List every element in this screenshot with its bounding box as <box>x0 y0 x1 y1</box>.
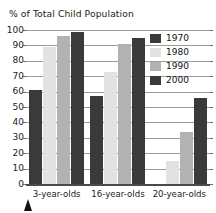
bar-chart: % of Total Child Population 100908070605… <box>0 0 216 213</box>
bar-group <box>26 30 87 184</box>
legend-item-label: 1980 <box>166 48 189 57</box>
chart-legend: 1970198019902000 <box>150 31 210 87</box>
legend-item-label: 2000 <box>166 76 189 85</box>
bar <box>29 90 42 184</box>
bar <box>118 44 131 184</box>
bar <box>71 32 84 184</box>
pointer-triangle-icon <box>24 199 32 211</box>
legend-item: 2000 <box>150 73 210 87</box>
legend-swatch-icon <box>150 34 161 43</box>
legend-item: 1970 <box>150 31 210 45</box>
legend-item: 1980 <box>150 45 210 59</box>
bar-group <box>87 30 148 184</box>
bar <box>166 161 179 184</box>
legend-item-label: 1990 <box>166 62 189 71</box>
x-axis-category-label: 16-year-olds <box>87 189 148 199</box>
gridline <box>26 184 210 186</box>
bar <box>57 36 70 184</box>
bar <box>194 98 207 184</box>
bar <box>180 132 193 184</box>
x-axis-category-label: 3-year-olds <box>26 189 87 199</box>
bar <box>90 96 103 184</box>
legend-swatch-icon <box>150 62 161 71</box>
legend-item-label: 1970 <box>166 34 189 43</box>
bar <box>43 47 56 184</box>
legend-swatch-icon <box>150 76 161 85</box>
legend-item: 1990 <box>150 59 210 73</box>
x-axis-category-label: 20-year-olds <box>149 189 210 199</box>
bar <box>132 38 145 184</box>
chart-title: % of Total Child Population <box>9 8 134 19</box>
y-axis-tickmarks-left <box>0 30 26 184</box>
legend-swatch-icon <box>150 48 161 57</box>
bar <box>104 72 117 184</box>
